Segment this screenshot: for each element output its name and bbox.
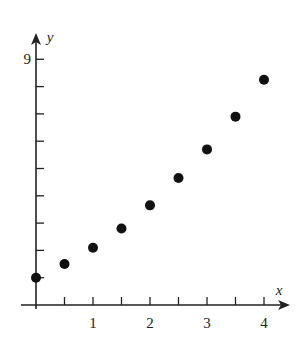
data-point: [231, 112, 241, 122]
data-point: [88, 243, 98, 253]
x-tick-label: 1: [89, 315, 97, 331]
data-point: [31, 273, 41, 283]
y-axis-label: y: [45, 29, 54, 45]
data-point: [60, 259, 70, 269]
x-tick-label: 2: [146, 315, 154, 331]
y-tick-label: 9: [24, 51, 32, 67]
data-point: [117, 224, 127, 234]
scatter-chart: 12349xy: [0, 0, 303, 349]
data-point: [174, 173, 184, 183]
x-tick-label: 3: [203, 315, 211, 331]
data-point: [202, 144, 212, 154]
x-axis-label: x: [275, 282, 283, 298]
data-point: [145, 200, 155, 210]
x-tick-label: 4: [260, 315, 268, 331]
data-point: [259, 75, 269, 85]
